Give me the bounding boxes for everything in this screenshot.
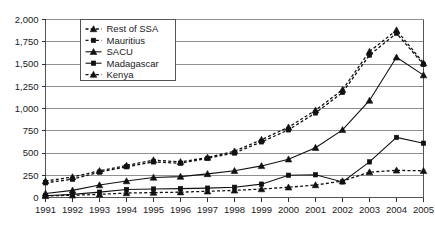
x-tick-label: 2000 <box>278 204 299 215</box>
y-axis: 02505007501,0001,2501,5001,7502,000 <box>15 14 46 203</box>
data-point <box>421 141 425 145</box>
y-tick-label: 1,500 <box>15 58 39 69</box>
x-tick-label: 2004 <box>386 204 407 215</box>
data-point <box>421 62 425 66</box>
legend-item-label: Rest of SSA <box>107 23 159 34</box>
x-tick-label: 1993 <box>89 204 110 215</box>
data-point <box>340 90 344 94</box>
legend-marker-swatch <box>91 38 95 42</box>
y-tick-label: 1,750 <box>15 36 39 47</box>
legend-marker-swatch <box>91 61 95 65</box>
data-point <box>285 156 292 162</box>
data-point <box>394 31 398 35</box>
legend-item-label: Kenya <box>107 69 135 80</box>
data-point <box>205 156 209 160</box>
line-chart: 02505007501,0001,2501,5001,7502,000 1991… <box>0 0 435 227</box>
x-tick-label: 1991 <box>35 204 56 215</box>
x-axis: 1991199219931994199519961997199819992000… <box>35 198 434 215</box>
x-tick-label: 2002 <box>332 204 353 215</box>
x-tick-label: 1997 <box>197 204 218 215</box>
legend-item-label: SACU <box>107 46 134 57</box>
y-tick-label: 1,250 <box>15 81 39 92</box>
data-point <box>97 170 101 174</box>
data-point <box>232 151 236 155</box>
data-point <box>286 173 290 177</box>
x-tick-label: 1995 <box>143 204 164 215</box>
chart-legend[interactable]: Rest of SSAMauritiusSACUMadagascarKenya <box>81 20 176 81</box>
x-tick-label: 2003 <box>359 204 380 215</box>
data-point <box>43 181 47 185</box>
data-point <box>366 97 373 103</box>
y-tick-label: 750 <box>23 125 39 136</box>
y-tick-label: 2,000 <box>15 14 39 25</box>
data-point <box>367 160 371 164</box>
x-tick-label: 2005 <box>413 204 434 215</box>
data-point <box>393 54 400 60</box>
data-point <box>124 165 128 169</box>
y-tick-label: 1,000 <box>15 103 39 114</box>
y-tick-label: 250 <box>23 170 39 181</box>
data-point <box>367 53 371 57</box>
y-tick-label: 500 <box>23 147 39 158</box>
data-point <box>313 173 317 177</box>
data-point <box>312 144 319 150</box>
y-tick-label: 0 <box>33 192 38 203</box>
data-point <box>259 140 263 144</box>
x-tick-label: 1994 <box>116 204 137 215</box>
chart-canvas: 02505007501,0001,2501,5001,7502,000 1991… <box>0 0 435 227</box>
data-point <box>394 135 398 139</box>
data-point <box>420 72 427 78</box>
x-tick-label: 1998 <box>224 204 245 215</box>
data-point <box>151 160 155 164</box>
data-point <box>313 111 317 115</box>
x-tick-label: 1992 <box>62 204 83 215</box>
data-point <box>286 128 290 132</box>
x-tick-label: 1999 <box>251 204 272 215</box>
x-tick-label: 2001 <box>305 204 326 215</box>
data-point <box>70 177 74 181</box>
legend-item-label: Mauritius <box>107 35 146 46</box>
data-point <box>178 161 182 165</box>
legend-item-label: Madagascar <box>107 58 159 69</box>
data-point <box>420 167 427 173</box>
x-tick-label: 1996 <box>170 204 191 215</box>
